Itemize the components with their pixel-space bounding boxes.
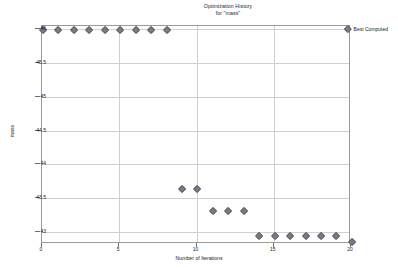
plot-area	[41, 25, 350, 243]
x-tick-label: 15	[258, 246, 288, 252]
data-point-marker	[162, 26, 171, 35]
gridline-horizontal	[42, 164, 349, 165]
data-point-marker	[100, 26, 109, 35]
data-point-marker	[286, 232, 295, 241]
gridline-horizontal	[42, 131, 349, 132]
data-point-marker	[70, 26, 79, 35]
gridline-vertical	[274, 26, 275, 242]
y-tick-label: 46	[6, 25, 46, 31]
gridline-horizontal	[42, 198, 349, 199]
gridline-vertical	[119, 26, 120, 242]
x-tick-label: 5	[103, 246, 133, 252]
data-point-marker	[131, 26, 140, 35]
y-tick-label: 43.5	[6, 194, 46, 200]
x-tick-label: 10	[181, 246, 211, 252]
data-point-marker	[255, 232, 264, 241]
chart-title: Optimization History for "mass"	[168, 3, 288, 16]
legend-diamond-icon	[344, 25, 352, 33]
y-tick-label: 45	[6, 93, 46, 99]
x-tick-label: 0	[26, 246, 56, 252]
gridline-horizontal	[42, 97, 349, 98]
data-point-marker	[193, 185, 202, 194]
gridline-horizontal	[42, 63, 349, 64]
optimization-history-chart: Optimization History for "mass" 4343.544…	[0, 0, 398, 267]
y-axis-label: mass	[9, 111, 15, 151]
data-point-marker	[270, 232, 279, 241]
y-tick-label: 45.5	[6, 59, 46, 65]
data-point-marker	[85, 26, 94, 35]
data-point-marker	[301, 232, 310, 241]
chart-title-line2: for "mass"	[168, 10, 288, 17]
x-axis-label: Number of Iterations	[0, 255, 398, 261]
gridline-vertical	[197, 26, 198, 242]
y-tick-label: 43	[6, 228, 46, 234]
data-point-marker	[147, 26, 156, 35]
data-point-marker	[54, 26, 63, 35]
data-point-marker	[224, 207, 233, 216]
x-tick-label: 20	[335, 246, 365, 252]
data-point-marker	[116, 26, 125, 35]
data-point-marker	[178, 185, 187, 194]
data-point-marker	[239, 207, 248, 216]
data-point-marker	[332, 232, 341, 241]
data-point-marker	[348, 237, 357, 246]
legend-label-best-computed: Best Computed	[354, 26, 388, 32]
data-point-marker	[317, 232, 326, 241]
gridline-horizontal	[42, 232, 349, 233]
data-point-marker	[209, 207, 218, 216]
y-tick-label: 44	[6, 160, 46, 166]
chart-legend: Best Computed	[345, 26, 388, 32]
